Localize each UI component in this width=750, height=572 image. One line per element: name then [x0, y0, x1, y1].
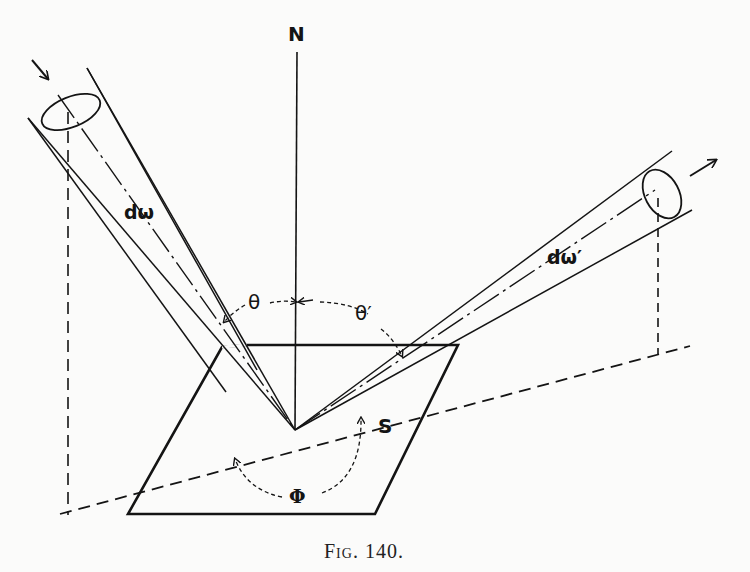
figure-caption: Fig. 140. [324, 540, 404, 563]
incident-angle-label: θ [248, 292, 260, 312]
reflected-cone [295, 151, 692, 430]
phi-arc-right [322, 418, 361, 493]
reflected-solid-angle-label: dω′ [547, 248, 582, 267]
theta-arc [270, 301, 296, 303]
azimuth-angle-label: Φ [289, 487, 306, 506]
surface-label: S [378, 416, 392, 436]
phi-arc-left [235, 459, 282, 497]
incident-arrow [32, 60, 48, 79]
theta-arc-left-leg [224, 305, 245, 322]
theta-prime-arc-end [381, 329, 402, 356]
normal-line [295, 52, 297, 430]
incident-solid-angle-label: dω [124, 203, 154, 222]
theta-prime-arc-start [299, 300, 313, 302]
normal-label: N [288, 24, 305, 44]
reflected-angle-label: θ′ [355, 303, 372, 323]
incident-ellipse [37, 86, 106, 137]
reflected-arrow [690, 160, 716, 176]
figure-140: N dω dω′ θ θ′ Φ S Fig. 140. [0, 0, 750, 572]
reflection-geometry-diagram [0, 0, 750, 572]
